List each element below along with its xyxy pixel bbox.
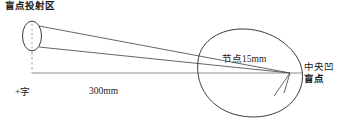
diagram-canvas	[0, 0, 341, 129]
blind-spot-projection-diagram: 盲点投射区 +字 300mm 节点15mm 中央凹 盲点	[0, 0, 341, 129]
label-cross-fixation: +字	[15, 88, 30, 98]
upper-incident-ray	[39, 26, 290, 73]
upper-refracted-ray	[274, 73, 290, 96]
label-blind-spot-projection-area: 盲点投射区	[5, 2, 55, 12]
label-fovea: 中央凹	[304, 63, 334, 73]
lower-refracted-ray	[284, 73, 290, 93]
label-viewing-distance: 300mm	[89, 87, 118, 97]
label-blind-spot: 盲点	[304, 75, 324, 85]
label-nodal-point: 节点15mm	[222, 55, 266, 65]
